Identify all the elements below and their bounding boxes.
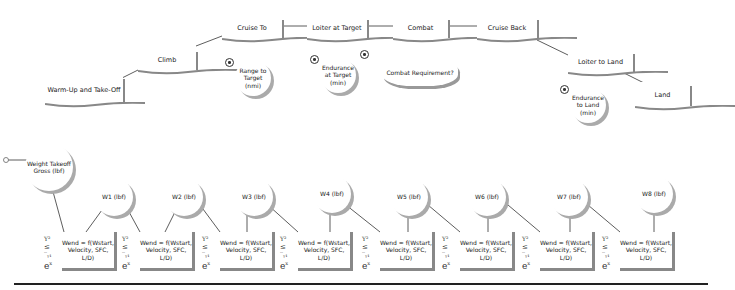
weight-label: W6 (lbf) [475,193,499,201]
mission-phase-6[interactable]: Loiter to Land [568,50,633,74]
combat-requirement-cloud[interactable]: Combat Requirement? [382,58,458,86]
weight-label: Weight Takeoff Gross (lbf) [25,160,73,175]
segment-equation-label: Wend = f(Wstart, Velocity, SFC, L/D) [460,239,512,262]
combat-radio[interactable] [360,50,369,59]
segment-formula-icon: Y²≤‾ᵧ₁ex [280,235,296,270]
mission-phase-label: Climb [158,56,177,64]
doc-shadow [633,54,635,72]
requirement-radio-0[interactable] [225,58,234,67]
mission-phase-label: Cruise To [237,24,266,32]
doc-shadow [282,20,284,38]
weight-node-0[interactable]: Weight Takeoff Gross (lbf) [25,143,73,191]
doc-wave [568,71,668,77]
mission-phase-label: Cruise Back [488,24,526,32]
segment-equation-1[interactable]: Wend = f(Wstart, Velocity, SFC, L/D) [140,232,195,271]
weight-label: W7 (lbf) [557,193,581,201]
combat-requirement-label: Combat Requirement? [386,69,453,76]
requirement-label: Endurance to Land (min) [570,94,606,117]
weight-node-5[interactable]: W5 (lbf) [390,178,428,216]
weight-node-1[interactable]: W1 (lbf) [95,178,133,216]
doc-shadow [367,20,369,38]
weight-node-7[interactable]: W7 (lbf) [550,178,588,216]
doc-shadow [537,20,539,38]
segment-equation-label: Wend = f(Wstart, Velocity, SFC, L/D) [220,239,272,262]
segment-equation-2[interactable]: Wend = f(Wstart, Velocity, SFC, L/D) [220,232,275,271]
requirement-input-1[interactable]: Endurance at Target (min) [320,57,356,93]
doc-shadow [196,52,198,70]
segment-equation-0[interactable]: Wend = f(Wstart, Velocity, SFC, L/D) [62,232,117,271]
mission-phase-4[interactable]: Combat [393,16,448,40]
mission-phase-0[interactable]: Warm-Up and Take-Off [45,75,123,105]
weight-node-4[interactable]: W4 (lbf) [313,175,351,213]
segment-formula-icon: Y²≤‾ᵧ₁ex [442,235,458,270]
segment-formula-icon: Y²≤‾ᵧ₁ex [202,235,218,270]
weight-node-2[interactable]: W2 (lbf) [165,178,203,216]
mission-phase-3[interactable]: Loiter at Target [307,16,367,40]
mission-phase-5[interactable]: Cruise Back [477,16,537,40]
requirement-input-2[interactable]: Endurance to Land (min) [570,87,606,123]
mission-phase-label: Warm-Up and Take-Off [47,86,120,94]
mission-phase-1[interactable]: Climb [138,48,196,72]
segment-formula-icon: Y²≤‾ᵧ₁ex [362,235,378,270]
weight-label: W3 (lbf) [242,193,266,201]
requirement-input-0[interactable]: Range to Target (nmi) [235,60,271,96]
requirement-radio-1[interactable] [310,55,319,64]
mission-phase-label: Combat [408,24,434,32]
doc-shadow [123,79,125,103]
requirement-label: Endurance at Target (min) [320,64,356,87]
weight-node-3[interactable]: W3 (lbf) [235,178,273,216]
doc-shadow [448,20,450,38]
segment-equation-label: Wend = f(Wstart, Velocity, SFC, L/D) [140,239,192,262]
doc-shadow [690,86,692,106]
doc-wave [138,69,238,75]
segment-formula-icon: Y²≤‾ᵧ₁ex [44,235,60,270]
doc-wave [45,102,145,108]
segment-equation-label: Wend = f(Wstart, Velocity, SFC, L/D) [380,239,432,262]
segment-equation-label: Wend = f(Wstart, Velocity, SFC, L/D) [620,239,672,262]
segment-formula-icon: Y²≤‾ᵧ₁ex [602,235,618,270]
mission-phase-2[interactable]: Cruise To [222,16,282,40]
weight-label: W2 (lbf) [172,193,196,201]
segment-equation-6[interactable]: Wend = f(Wstart, Velocity, SFC, L/D) [540,232,595,271]
weight-label: W1 (lbf) [102,193,126,201]
segment-equation-7[interactable]: Wend = f(Wstart, Velocity, SFC, L/D) [620,232,675,271]
mission-phase-label: Loiter to Land [578,58,623,66]
segment-equation-label: Wend = f(Wstart, Velocity, SFC, L/D) [62,239,114,262]
segment-formula-icon: Y²≤‾ᵧ₁ex [522,235,538,270]
mission-phase-label: Loiter at Target [312,24,361,32]
doc-wave [307,37,407,43]
segment-equation-3[interactable]: Wend = f(Wstart, Velocity, SFC, L/D) [298,232,353,271]
weight-label: W8 (lbf) [642,190,666,198]
segment-equation-label: Wend = f(Wstart, Velocity, SFC, L/D) [298,239,350,262]
mission-phase-label: Land [655,91,671,99]
weight-label: W5 (lbf) [397,193,421,201]
doc-wave [477,37,577,43]
mission-phase-7[interactable]: Land [635,82,690,108]
segment-formula-icon: Y²≤‾ᵧ₁ex [122,235,138,270]
weight-node-8[interactable]: W8 (lbf) [635,175,673,213]
weight-label: W4 (lbf) [320,190,344,198]
requirement-radio-2[interactable] [560,85,569,94]
doc-wave [635,105,735,111]
segment-equation-label: Wend = f(Wstart, Velocity, SFC, L/D) [540,239,592,262]
baseline-divider [14,283,708,285]
requirement-label: Range to Target (nmi) [235,67,271,90]
segment-equation-4[interactable]: Wend = f(Wstart, Velocity, SFC, L/D) [380,232,435,271]
segment-equation-5[interactable]: Wend = f(Wstart, Velocity, SFC, L/D) [460,232,515,271]
weight-node-6[interactable]: W6 (lbf) [468,178,506,216]
